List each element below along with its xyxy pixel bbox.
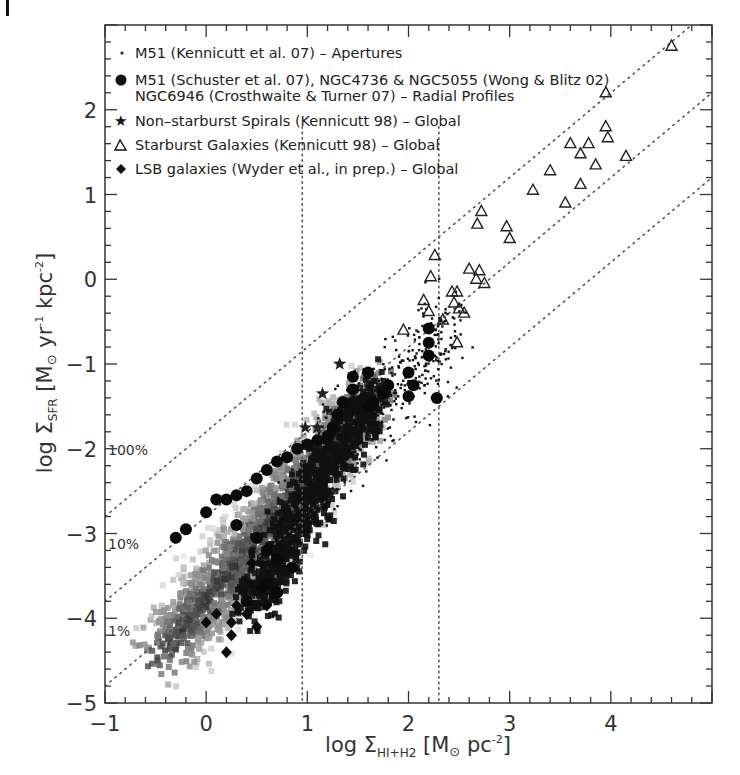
open-triangle-marker-icon	[115, 140, 126, 150]
radial-profile-point	[403, 390, 415, 402]
radial-profile-point	[261, 544, 273, 556]
y-tick-label: −3	[66, 523, 97, 547]
radial-profile-point	[347, 371, 359, 383]
starburst-point	[575, 148, 586, 158]
starburst-point	[425, 271, 436, 281]
legend-item-lsb: LSB galaxies (Wyder et al., in prep.) – …	[116, 161, 458, 177]
starburst-point	[560, 197, 571, 207]
x-tick-label: 1	[301, 712, 314, 736]
starburst-point	[504, 233, 515, 243]
dot-marker-icon	[120, 51, 123, 54]
radial-profile-point	[180, 523, 192, 535]
radial-profile-point	[347, 383, 359, 395]
starburst-point	[583, 138, 594, 148]
starburst-point	[476, 205, 487, 215]
starburst-point	[590, 159, 601, 169]
radial-profile-point	[200, 506, 212, 518]
radial-profile-point	[377, 388, 389, 400]
starburst-point	[423, 305, 434, 315]
radial-profile-point	[271, 455, 283, 467]
legend-label: Non–starburst Spirals (Kennicutt 98) – G…	[135, 113, 461, 129]
x-tick-label: 0	[199, 712, 212, 736]
legend-item-apertures: M51 (Kennicutt et al. 07) – Apertures	[120, 45, 402, 61]
radial-profile-point	[261, 464, 273, 476]
filled-diamond-marker-icon	[116, 164, 126, 174]
radial-profile-point	[362, 366, 374, 378]
radial-profile-point	[210, 494, 222, 506]
radial-profile-point	[251, 532, 263, 544]
radial-profile-point	[337, 396, 349, 408]
legend-item-radial-profiles: M51 (Schuster et al. 07), NGC4736 & NGC5…	[116, 72, 610, 104]
radial-profile-point	[431, 392, 443, 404]
x-axis-title: log ΣHI+H2 [M⊙ pc-2]	[325, 733, 511, 760]
legend-label: Starburst Galaxies (Kennicutt 98) – Glob…	[135, 137, 439, 153]
x-tick-label: 2	[402, 712, 415, 736]
filled-circle-marker-icon	[116, 75, 127, 86]
radial-profile-point	[423, 350, 435, 362]
radial-profile-point	[170, 532, 182, 544]
label-1pct: 1%	[108, 623, 130, 639]
starburst-point	[472, 218, 483, 228]
y-tick-label: 0	[84, 268, 97, 292]
legend-item-non-starburst: ★ Non–starburst Spirals (Kennicutt 98) –…	[114, 112, 461, 130]
y-tick-label: −2	[66, 438, 97, 462]
y-tick-label: 2	[84, 99, 97, 123]
legend-label: M51 (Kennicutt et al. 07) – Apertures	[135, 45, 402, 61]
radial-profile-point	[291, 443, 303, 455]
non-starburst-point	[333, 357, 346, 370]
y-tick-label: −4	[66, 607, 97, 631]
legend-label-line2: NGC6946 (Crosthwaite & Turner 07) – Radi…	[135, 88, 514, 104]
x-tick-label: 4	[604, 712, 617, 736]
star-marker-icon: ★	[114, 112, 127, 130]
legend-item-starburst: Starburst Galaxies (Kennicutt 98) – Glob…	[115, 137, 439, 153]
starburst-point	[602, 132, 613, 142]
radial-profile-point	[423, 322, 435, 334]
label-10pct: 10%	[108, 536, 139, 552]
starburst-point	[464, 263, 475, 273]
starburst-point	[600, 87, 611, 97]
starburst-point	[565, 138, 576, 148]
y-axis-title: log ΣSFR [M⊙ yr-1 kpc-2]	[33, 253, 60, 473]
starburst-point	[452, 337, 463, 347]
starburst-point	[575, 178, 586, 188]
non-starburst-point	[299, 421, 312, 434]
y-tick-label: 1	[84, 184, 97, 208]
gray-density-cloud	[130, 356, 397, 689]
radial-profile-point	[231, 519, 243, 531]
radial-profile-point	[423, 337, 435, 349]
radial-profile-point	[332, 409, 344, 421]
label-100pct: 100%	[108, 442, 148, 458]
y-tick-label: −1	[66, 353, 97, 377]
radial-profile-point	[408, 379, 420, 391]
radial-profile-point	[251, 472, 263, 484]
starburst-point	[600, 121, 611, 131]
radial-profile-point	[286, 561, 298, 573]
radial-profile-point	[403, 366, 415, 378]
starburst-point	[501, 221, 512, 231]
starburst-point	[527, 184, 538, 194]
radial-profile-point	[362, 400, 374, 412]
starburst-point	[621, 150, 632, 160]
legend-label: M51 (Schuster et al. 07), NGC4736 & NGC5…	[135, 72, 610, 88]
radial-profile-point	[271, 553, 283, 565]
legend-label: LSB galaxies (Wyder et al., in prep.) – …	[135, 161, 458, 177]
radial-profile-point	[241, 595, 253, 607]
line-labels: 100% 10% 1%	[108, 442, 148, 639]
scatter-chart: −101234−5−4−3−2−1012 M51 (Kennicutt et a…	[0, 0, 740, 775]
diagonal-line-1%	[105, 178, 712, 687]
starburst-point	[398, 324, 409, 334]
y-tick-label: −5	[66, 692, 97, 716]
starburst-point	[545, 165, 556, 175]
